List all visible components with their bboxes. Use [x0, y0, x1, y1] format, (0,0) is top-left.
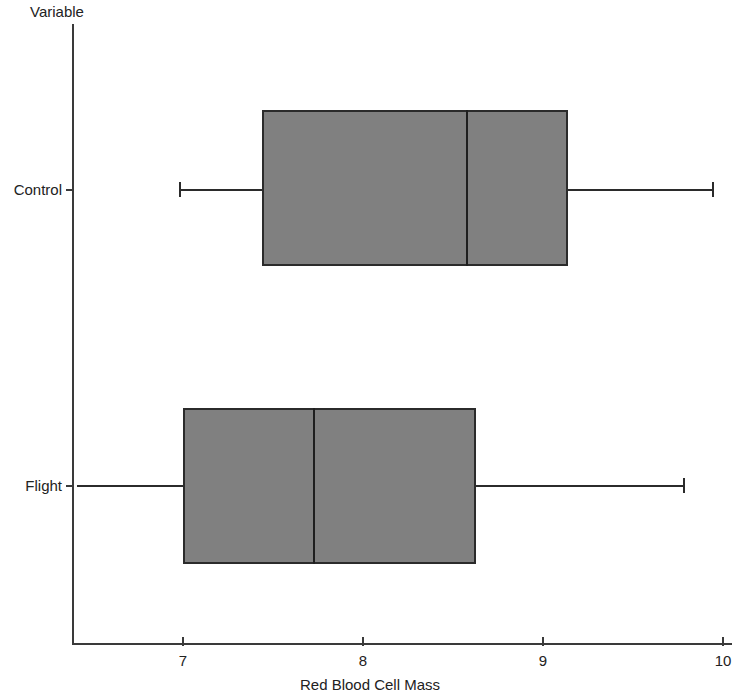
x-axis-tick-9: [542, 637, 544, 646]
x-axis-tick-10: [722, 637, 724, 646]
y-axis-label-control-wrap: Control: [0, 181, 62, 198]
x-axis-label-8: 8: [359, 652, 367, 669]
x-axis-label-9-wrap: 9: [513, 652, 573, 670]
whisker-low-control: [179, 189, 262, 191]
x-axis-title: Red Blood Cell Mass: [0, 676, 740, 694]
x-axis-label-7: 7: [179, 652, 187, 669]
x-axis-label-8-wrap: 8: [333, 652, 393, 670]
whisker-high-flight: [476, 485, 683, 487]
x-axis-tick-7: [182, 637, 184, 646]
y-axis-label-flight-wrap: Flight: [0, 477, 62, 494]
whisker-cap-high-control: [712, 182, 714, 197]
whisker-low-flight: [77, 485, 183, 487]
x-axis-tick-8: [362, 637, 364, 646]
box-flight: [183, 408, 476, 564]
y-axis-label-control: Control: [14, 181, 62, 198]
box-control: [262, 110, 568, 266]
x-axis-label-10-wrap: 10: [693, 652, 740, 670]
median-line-flight: [313, 408, 315, 564]
y-axis-line: [72, 24, 74, 644]
whisker-high-control: [568, 189, 712, 191]
y-axis-title: Variable: [30, 3, 84, 21]
whisker-cap-high-flight: [683, 478, 685, 493]
median-line-control: [466, 110, 468, 266]
x-axis-label-9: 9: [539, 652, 547, 669]
x-axis-label-7-wrap: 7: [153, 652, 213, 670]
y-axis-tick-control: [66, 189, 74, 191]
whisker-cap-low-control: [179, 182, 181, 197]
x-axis-line: [72, 643, 732, 645]
y-axis-label-flight: Flight: [25, 477, 62, 494]
x-axis-label-10: 10: [715, 652, 732, 669]
boxplot-chart: Variable Control Flight 7 8 9 10 Red Blo…: [0, 0, 740, 699]
y-axis-tick-flight: [66, 485, 74, 487]
